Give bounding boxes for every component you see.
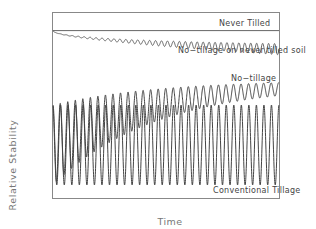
label-no-tillage-never-tilled: No−tillage on never tilled soil xyxy=(178,46,306,55)
series-conventional-tillage xyxy=(53,105,279,185)
x-axis-label: Time xyxy=(150,216,190,227)
y-axis-label: Relative Stability xyxy=(7,105,21,225)
label-never-tilled: Never Tilled xyxy=(219,19,270,28)
label-conventional-tillage: Conventional Tillage xyxy=(213,186,300,195)
series-no-tillage xyxy=(53,83,279,182)
label-no-tillage: No−tillage xyxy=(231,74,276,83)
